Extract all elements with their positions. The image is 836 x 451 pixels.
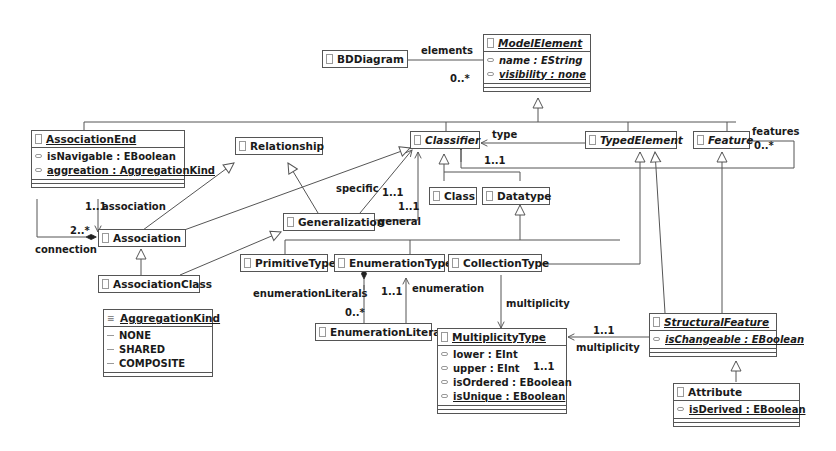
literal-icon <box>107 349 114 350</box>
attribute-icon <box>677 407 684 411</box>
class-icon <box>35 134 42 144</box>
class-icon <box>414 135 421 145</box>
mult-elements: 0..* <box>450 73 470 84</box>
class-feature[interactable]: Feature <box>693 131 750 149</box>
class-attribute[interactable]: Attribute isDerived : EBoolean <box>673 383 800 427</box>
class-enumerationliteral[interactable]: EnumerationLiteral <box>315 323 432 341</box>
class-enumerationtype[interactable]: EnumerationType <box>334 254 445 272</box>
role-enumerationliterals: enumerationLiterals <box>253 288 368 299</box>
role-association: association <box>102 201 166 212</box>
class-structuralfeature[interactable]: StructuralFeature isChangeable : EBoolea… <box>649 313 777 357</box>
attribute-icon <box>441 394 448 398</box>
mult-features: 0..* <box>754 140 774 151</box>
class-name: EnumerationLiteral <box>330 326 444 338</box>
mult-multiplicity-sf: 1..1 <box>593 325 615 336</box>
attribute-icon <box>487 58 494 62</box>
role-type: type <box>492 129 517 140</box>
mult-specific: 1..1 <box>382 187 404 198</box>
literal-icon <box>107 335 114 336</box>
class-name: BDDiagram <box>337 53 404 65</box>
role-elements: elements <box>421 45 473 56</box>
class-icon <box>326 54 333 64</box>
class-association[interactable]: Association <box>98 229 186 247</box>
class-typedelement[interactable]: TypedElement <box>585 131 677 149</box>
class-icon <box>697 135 704 145</box>
literal-icon <box>107 363 114 364</box>
attribute-icon <box>441 380 448 384</box>
class-generalization[interactable]: Generalization <box>283 213 375 231</box>
literal-shared[interactable]: SHARED <box>107 342 209 356</box>
attribute-icon <box>441 352 448 356</box>
literal-composite[interactable]: COMPOSITE <box>107 356 209 370</box>
attribute-visibility[interactable]: visibility : none <box>487 67 587 81</box>
class-relationship[interactable]: Relationship <box>235 137 323 155</box>
class-name: PrimitiveType <box>255 257 336 269</box>
class-name: Association <box>113 232 181 244</box>
class-name: Feature <box>708 134 753 146</box>
class-name: MultiplicityType <box>452 331 546 343</box>
role-multiplicity-sf: multiplicity <box>576 342 640 353</box>
mult-general: 1..1 <box>398 201 420 212</box>
class-datatype[interactable]: Datatype <box>482 187 550 205</box>
class-name: Classifier <box>425 134 480 146</box>
class-primitivetype[interactable]: PrimitiveType <box>240 254 328 272</box>
class-icon <box>244 258 251 268</box>
attribute-isnavigable[interactable]: isNavigable : EBoolean <box>35 149 181 163</box>
class-name: StructuralFeature <box>664 316 769 328</box>
class-collectiontype[interactable]: CollectionType <box>448 254 542 272</box>
attribute-icon <box>487 72 494 76</box>
attribute-lower[interactable]: lower : EInt <box>441 347 563 361</box>
class-icon <box>677 387 684 397</box>
attribute-name[interactable]: name : EString <box>487 53 587 67</box>
literal-none[interactable]: NONE <box>107 328 209 342</box>
role-features: features <box>752 126 799 137</box>
attribute-icon <box>441 366 448 370</box>
class-icon <box>487 38 494 48</box>
class-name: AssociationEnd <box>46 133 136 145</box>
mult-multiplicity-collection: 1..1 <box>533 361 555 372</box>
attribute-isunique[interactable]: isUnique : EBoolean <box>441 389 563 403</box>
class-name: Relationship <box>250 140 324 152</box>
class-name: AssociationClass <box>113 278 212 290</box>
class-associationend[interactable]: AssociationEnd isNavigable : EBoolean ag… <box>31 130 185 188</box>
class-name: TypedElement <box>600 134 683 146</box>
attribute-icon <box>653 337 660 341</box>
class-name: CollectionType <box>463 257 549 269</box>
enum-aggregationkind[interactable]: ≡AggregationKind NONE SHARED COMPOSITE <box>103 309 213 377</box>
class-icon <box>287 217 294 227</box>
role-multiplicity-collection: multiplicity <box>506 298 570 309</box>
class-associationclass[interactable]: AssociationClass <box>98 275 200 293</box>
attribute-isordered[interactable]: isOrdered : EBoolean <box>441 375 563 389</box>
attribute-isderived[interactable]: isDerived : EBoolean <box>677 402 796 416</box>
class-name: Datatype <box>497 190 551 202</box>
class-icon <box>486 191 493 201</box>
class-icon <box>589 135 596 145</box>
class-icon <box>653 317 660 327</box>
mult-enumerationliterals: 0..* <box>345 307 365 318</box>
class-classifier[interactable]: Classifier <box>410 131 480 149</box>
attribute-aggreation[interactable]: aggreation : AggregationKind <box>35 163 181 177</box>
mult-enumeration: 1..1 <box>381 286 403 297</box>
mult-connection: 2..* <box>70 225 90 236</box>
class-modelelement[interactable]: ModelElement name : EString visibility :… <box>483 34 591 92</box>
mult-classifier: 1..1 <box>484 155 506 166</box>
class-icon <box>433 191 440 201</box>
class-icon <box>452 258 459 268</box>
role-general: general <box>378 216 421 227</box>
role-connection: connection <box>35 244 97 255</box>
class-bddiagram[interactable]: BDDiagram <box>322 50 408 68</box>
attribute-ischangeable[interactable]: isChangeable : EBoolean <box>653 332 773 346</box>
attribute-icon <box>35 168 42 172</box>
class-name: Class <box>444 190 475 202</box>
class-icon <box>319 327 326 337</box>
class-icon <box>102 279 109 289</box>
class-icon <box>338 258 345 268</box>
role-specific: specific <box>336 183 379 194</box>
class-icon <box>441 332 448 342</box>
class-class[interactable]: Class <box>429 187 477 205</box>
class-name: EnumerationType <box>349 257 452 269</box>
class-name: Generalization <box>298 216 384 228</box>
class-name: Attribute <box>688 386 742 398</box>
role-enumeration: enumeration <box>412 283 484 294</box>
class-name: ModelElement <box>498 37 582 49</box>
